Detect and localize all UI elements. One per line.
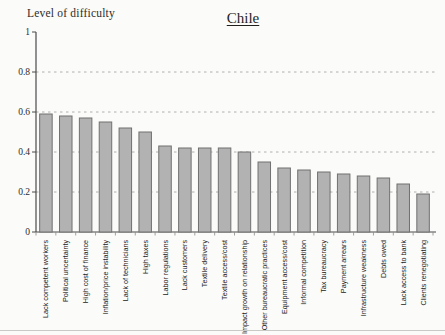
category-label: Political uncertainty [61, 240, 70, 302]
y-tick-label: 0.4 [18, 147, 30, 157]
bar [238, 152, 251, 232]
bar [119, 128, 132, 232]
category-label: Other bureaucratic practices [260, 240, 269, 331]
bar [139, 132, 152, 232]
y-tick-label: 0.6 [18, 107, 30, 117]
bar [198, 148, 211, 232]
bar [99, 122, 112, 232]
category-label: Infrastructure weakness [359, 240, 368, 317]
category-label: Inflation/price instability [101, 240, 110, 315]
y-tick-label: 0.8 [18, 67, 30, 77]
bar [40, 114, 53, 232]
bar [278, 168, 291, 232]
bar [179, 148, 192, 232]
category-label: Debts owed [379, 240, 388, 278]
bar-chart: 00.20.40.60.81Lack competent workersPoli… [0, 0, 445, 335]
category-label: Clients renegotiating [419, 240, 428, 306]
category-label: High taxes [141, 240, 150, 274]
bar [218, 148, 231, 232]
category-label: Lack access to bank [399, 240, 408, 306]
y-tick-label: 0.2 [18, 187, 30, 197]
bar [298, 170, 311, 232]
category-label: Equipment access/cost [280, 240, 289, 314]
bar [318, 172, 331, 232]
bar [357, 176, 370, 232]
bar [337, 174, 350, 232]
bar [258, 162, 271, 232]
category-label: Impact growth on relationship [240, 240, 249, 334]
category-label: Textile access/cost [220, 240, 229, 300]
bar [159, 146, 172, 232]
y-tick-label: 0 [25, 227, 30, 237]
page-bottom-rule [0, 330, 445, 331]
category-label: Textile delivery [200, 240, 209, 288]
bar [60, 116, 73, 232]
category-label: Labor regulations [161, 240, 170, 296]
category-label: Lack competent workers [41, 240, 50, 318]
category-label: Informal competition [299, 240, 308, 305]
category-label: Lack customers [180, 240, 189, 291]
figure-page: Level of difficulty Chile 00.20.40.60.81… [0, 0, 445, 335]
bar [397, 184, 410, 232]
bar [417, 194, 430, 232]
category-label: Payment arrears [339, 240, 348, 294]
category-label: High cost of finance [81, 240, 90, 303]
category-label: Tax bureaucracy [319, 240, 328, 293]
category-label: Lack of technicians [121, 240, 130, 302]
bar [79, 118, 92, 232]
bar [377, 178, 390, 232]
y-tick-label: 1 [25, 27, 30, 37]
